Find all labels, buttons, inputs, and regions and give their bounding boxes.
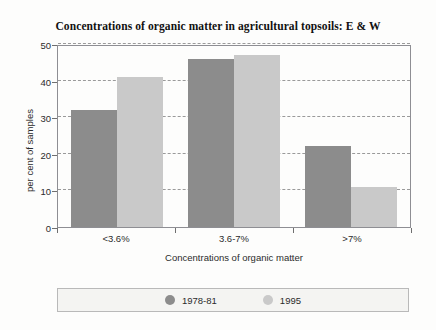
y-axis-tick-label: 50 [21,40,51,51]
chart-legend: 1978-81 1995 [57,288,409,312]
x-axis-title: Concentrations of organic matter [57,252,411,263]
bar [351,187,397,227]
legend-item-label: 1995 [280,295,301,306]
x-axis-tick-label: >7% [293,233,411,244]
bar [71,110,117,227]
bar [117,77,163,227]
bar-chart-figure: Concentrations of organic matter in agri… [0,0,436,330]
x-axis-tick-mark [175,228,176,233]
x-axis-tick-mark [411,228,412,233]
chart-title: Concentrations of organic matter in agri… [0,20,436,32]
legend-item-series-a: 1978-81 [165,295,217,306]
circle-swatch-icon [263,295,273,305]
circle-swatch-icon [165,295,175,305]
plot-area [57,45,411,228]
y-axis-tick-label: 40 [21,76,51,87]
bar [234,55,280,227]
bar [188,59,234,227]
legend-item-series-b: 1995 [263,295,301,306]
y-axis-tick-label: 30 [21,113,51,124]
gridline [58,43,410,44]
y-axis-tick-label: 0 [21,223,51,234]
bar-group [175,46,292,227]
y-axis: per cent of samples 01020304050 [20,45,57,228]
x-axis-tick-label: <3.6% [57,233,175,244]
bars-layer [58,46,410,227]
x-axis: <3.6%3.6-7%>7% [57,233,411,244]
x-axis-tick-label: 3.6-7% [175,233,293,244]
bar-group [58,46,175,227]
bar-group [293,46,410,227]
x-axis-tick-mark [57,228,58,233]
y-axis-tick-label: 20 [21,149,51,160]
bar [305,146,351,227]
x-axis-tick-mark [293,228,294,233]
y-axis-tick-label: 10 [21,186,51,197]
legend-item-label: 1978-81 [182,295,217,306]
